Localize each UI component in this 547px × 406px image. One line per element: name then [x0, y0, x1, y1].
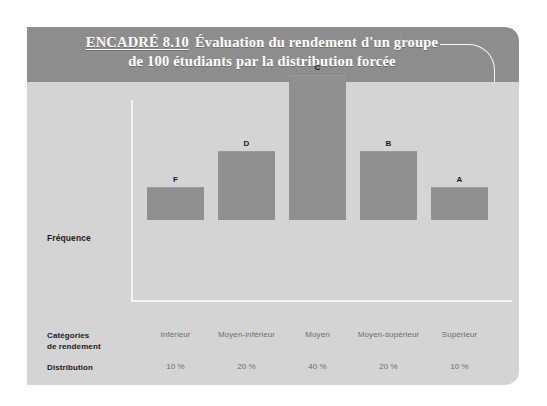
bar-group: A [431, 187, 488, 220]
figure-tag: ENCADRÉ 8.10 [86, 34, 189, 50]
figure-title: ENCADRÉ 8.10Évaluation du rendement d'un… [27, 33, 497, 71]
bar-grade-label: A [431, 175, 488, 184]
figure-box: ENCADRÉ 8.10Évaluation du rendement d'un… [27, 27, 519, 385]
figure-header-band: ENCADRÉ 8.10Évaluation du rendement d'un… [27, 27, 519, 82]
category-cell: Supérieur [417, 330, 503, 339]
bar-grade-label: C [289, 63, 346, 72]
row-label-categories: Catégories de rendement [47, 330, 101, 352]
bar-grade-label: D [218, 139, 275, 148]
bar-group: C [289, 75, 346, 220]
row-label-distribution: Distribution [47, 362, 93, 373]
distribution-cell: 10 % [417, 362, 503, 371]
bar-rect [218, 151, 275, 220]
bar-group: F [147, 187, 204, 220]
bar-rect [360, 151, 417, 220]
figure-title-line2: de 100 étudiants par la distribution for… [128, 53, 395, 69]
bar-group: B [360, 151, 417, 220]
bar-rect [147, 187, 204, 220]
bar-series: FDCBA [27, 82, 519, 302]
bar-grade-label: B [360, 139, 417, 148]
bar-rect [431, 187, 488, 220]
bar-grade-label: F [147, 175, 204, 184]
bar-rect [289, 75, 346, 220]
figure-title-line1: Évaluation du rendement d'un groupe [195, 34, 438, 50]
bar-group: D [218, 151, 275, 220]
chart-plot-area: Fréquence FDCBA Catégories de rendement … [27, 82, 519, 385]
